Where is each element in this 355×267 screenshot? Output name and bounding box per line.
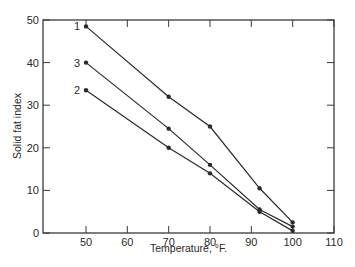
series-label: 1 bbox=[74, 20, 80, 32]
y-tick-label: 30 bbox=[27, 99, 39, 111]
x-tick-label: 100 bbox=[283, 236, 301, 248]
data-point bbox=[84, 60, 88, 64]
data-point bbox=[208, 124, 212, 128]
data-series: 132 bbox=[74, 20, 295, 233]
series-3: 3 bbox=[74, 57, 295, 229]
y-tick-label: 50 bbox=[27, 14, 39, 26]
x-axis-label: Temperature, °F. bbox=[150, 242, 227, 254]
y-axis-ticks: 01020304050 bbox=[27, 14, 334, 239]
x-tick-label: 50 bbox=[80, 236, 92, 248]
y-tick-label: 0 bbox=[33, 227, 39, 239]
data-point bbox=[257, 210, 261, 214]
data-point bbox=[208, 163, 212, 167]
data-point bbox=[166, 146, 170, 150]
data-point bbox=[290, 220, 294, 224]
x-tick-label: 110 bbox=[325, 236, 343, 248]
y-tick-label: 10 bbox=[27, 184, 39, 196]
data-point bbox=[166, 126, 170, 130]
data-point bbox=[166, 94, 170, 98]
series-label: 3 bbox=[74, 57, 80, 69]
x-tick-label: 90 bbox=[245, 236, 257, 248]
data-point bbox=[84, 88, 88, 92]
chart: 01020304050 5060708090100110 132 Tempera… bbox=[0, 0, 355, 267]
series-label: 2 bbox=[74, 84, 80, 96]
plot-frame bbox=[43, 20, 334, 233]
data-point bbox=[290, 224, 294, 228]
x-tick-label: 60 bbox=[121, 236, 133, 248]
y-tick-label: 40 bbox=[27, 57, 39, 69]
data-point bbox=[208, 171, 212, 175]
data-point bbox=[290, 229, 294, 233]
data-point bbox=[257, 186, 261, 190]
y-tick-label: 20 bbox=[27, 142, 39, 154]
series-1: 1 bbox=[74, 20, 295, 224]
y-axis-label: Solid fat index bbox=[11, 92, 23, 159]
data-point bbox=[84, 24, 88, 28]
